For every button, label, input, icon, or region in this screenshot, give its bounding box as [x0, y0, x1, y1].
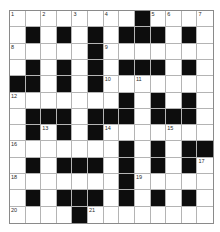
answer-cell[interactable] — [41, 190, 57, 206]
answer-cell[interactable] — [57, 141, 73, 157]
answer-cell[interactable] — [72, 174, 88, 190]
answer-cell[interactable] — [57, 174, 73, 190]
answer-cell[interactable] — [41, 44, 57, 60]
answer-cell[interactable] — [166, 60, 182, 76]
answer-cell[interactable] — [135, 44, 151, 60]
answer-cell[interactable] — [26, 174, 42, 190]
answer-cell[interactable] — [197, 109, 213, 125]
answer-cell[interactable] — [135, 158, 151, 174]
answer-cell[interactable] — [119, 207, 135, 223]
answer-cell[interactable] — [166, 207, 182, 223]
answer-cell[interactable]: 18 — [10, 174, 26, 190]
answer-cell[interactable] — [104, 190, 120, 206]
answer-cell[interactable] — [88, 11, 104, 27]
answer-cell[interactable] — [135, 93, 151, 109]
answer-cell[interactable] — [10, 158, 26, 174]
answer-cell[interactable] — [41, 174, 57, 190]
answer-cell[interactable] — [197, 27, 213, 43]
answer-cell[interactable]: 10 — [104, 76, 120, 92]
answer-cell[interactable]: 3 — [72, 11, 88, 27]
answer-cell[interactable] — [26, 11, 42, 27]
answer-cell[interactable] — [166, 76, 182, 92]
answer-cell[interactable] — [166, 174, 182, 190]
answer-cell[interactable] — [166, 141, 182, 157]
answer-cell[interactable] — [10, 109, 26, 125]
answer-cell[interactable] — [57, 93, 73, 109]
answer-cell[interactable] — [104, 158, 120, 174]
answer-cell[interactable] — [41, 93, 57, 109]
answer-cell[interactable]: 17 — [197, 158, 213, 174]
answer-cell[interactable] — [26, 44, 42, 60]
answer-cell[interactable] — [57, 11, 73, 27]
answer-cell[interactable] — [72, 60, 88, 76]
answer-cell[interactable] — [197, 174, 213, 190]
answer-cell[interactable] — [72, 125, 88, 141]
answer-cell[interactable]: 21 — [88, 207, 104, 223]
answer-cell[interactable] — [197, 190, 213, 206]
answer-cell[interactable] — [135, 190, 151, 206]
answer-cell[interactable]: 12 — [10, 93, 26, 109]
answer-cell[interactable] — [72, 141, 88, 157]
answer-cell[interactable] — [119, 125, 135, 141]
answer-cell[interactable] — [135, 125, 151, 141]
answer-cell[interactable] — [135, 141, 151, 157]
answer-cell[interactable]: 16 — [10, 141, 26, 157]
answer-cell[interactable] — [104, 174, 120, 190]
answer-cell[interactable] — [72, 76, 88, 92]
answer-cell[interactable] — [182, 207, 198, 223]
answer-cell[interactable] — [104, 207, 120, 223]
answer-cell[interactable] — [26, 93, 42, 109]
answer-cell[interactable] — [10, 190, 26, 206]
answer-cell[interactable] — [166, 93, 182, 109]
answer-cell[interactable] — [104, 93, 120, 109]
answer-cell[interactable] — [41, 76, 57, 92]
answer-cell[interactable] — [182, 44, 198, 60]
answer-cell[interactable] — [104, 60, 120, 76]
answer-cell[interactable] — [182, 174, 198, 190]
answer-cell[interactable] — [119, 76, 135, 92]
answer-cell[interactable] — [182, 125, 198, 141]
answer-cell[interactable] — [57, 44, 73, 60]
answer-cell[interactable] — [197, 60, 213, 76]
answer-cell[interactable] — [72, 109, 88, 125]
answer-cell[interactable] — [135, 109, 151, 125]
answer-cell[interactable] — [135, 207, 151, 223]
answer-cell[interactable] — [182, 76, 198, 92]
answer-cell[interactable] — [166, 190, 182, 206]
answer-cell[interactable] — [41, 158, 57, 174]
answer-cell[interactable] — [10, 125, 26, 141]
answer-cell[interactable]: 19 — [135, 174, 151, 190]
answer-cell[interactable] — [88, 93, 104, 109]
answer-cell[interactable] — [104, 141, 120, 157]
answer-cell[interactable] — [26, 141, 42, 157]
answer-cell[interactable] — [197, 93, 213, 109]
answer-cell[interactable] — [41, 27, 57, 43]
answer-cell[interactable]: 1 — [10, 11, 26, 27]
answer-cell[interactable]: 20 — [10, 207, 26, 223]
answer-cell[interactable] — [197, 44, 213, 60]
answer-cell[interactable] — [182, 11, 198, 27]
answer-cell[interactable] — [119, 11, 135, 27]
answer-cell[interactable] — [151, 174, 167, 190]
answer-cell[interactable] — [197, 76, 213, 92]
answer-cell[interactable]: 8 — [10, 44, 26, 60]
answer-cell[interactable] — [197, 207, 213, 223]
answer-cell[interactable]: 11 — [135, 76, 151, 92]
answer-cell[interactable] — [166, 44, 182, 60]
answer-cell[interactable] — [88, 174, 104, 190]
answer-cell[interactable] — [41, 60, 57, 76]
answer-cell[interactable]: 9 — [104, 44, 120, 60]
answer-cell[interactable] — [88, 141, 104, 157]
answer-cell[interactable]: 5 — [151, 11, 167, 27]
answer-cell[interactable] — [151, 44, 167, 60]
answer-cell[interactable] — [151, 76, 167, 92]
answer-cell[interactable] — [119, 44, 135, 60]
answer-cell[interactable]: 13 — [41, 125, 57, 141]
answer-cell[interactable] — [57, 207, 73, 223]
answer-cell[interactable] — [197, 125, 213, 141]
answer-cell[interactable] — [41, 207, 57, 223]
answer-cell[interactable] — [26, 207, 42, 223]
answer-cell[interactable] — [151, 207, 167, 223]
answer-cell[interactable] — [10, 60, 26, 76]
answer-cell[interactable]: 4 — [104, 11, 120, 27]
